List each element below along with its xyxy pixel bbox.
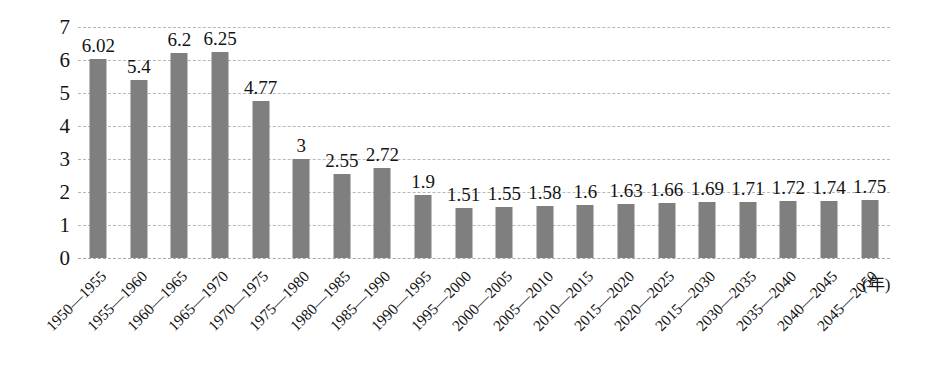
bar-value-label: 1.55	[488, 184, 521, 203]
bar-slot: 2.72	[362, 27, 403, 258]
y-axis-tick-label: 7	[30, 17, 70, 38]
bar-value-label: 2.72	[366, 145, 399, 164]
bar-slot: 3	[281, 27, 322, 258]
bar-slot: 6.2	[159, 27, 200, 258]
y-axis-tick-label: 4	[30, 116, 70, 137]
bar-value-label: 6.02	[82, 36, 115, 55]
bar-slot: 1.55	[484, 27, 525, 258]
bar-slot: 1.58	[525, 27, 566, 258]
bar-value-label: 1.72	[772, 178, 805, 197]
bar-slot: 1.71	[728, 27, 769, 258]
bar-value-label: 1.69	[691, 179, 724, 198]
x-axis: 1950—19551955—19601960—19651965—19701970…	[78, 258, 890, 375]
bar[interactable]	[536, 206, 553, 258]
bar-value-label: 1.58	[528, 183, 561, 202]
bar[interactable]	[333, 174, 350, 258]
bar[interactable]	[90, 59, 107, 258]
bar-value-label: 1.74	[812, 178, 845, 197]
bar-value-label: 1.6	[574, 182, 598, 201]
bar[interactable]	[739, 202, 756, 258]
bar[interactable]	[293, 159, 310, 258]
bar[interactable]	[455, 208, 472, 258]
bar-slot: 1.6	[565, 27, 606, 258]
bar-value-label: 3	[297, 136, 307, 155]
bar-value-label: 4.77	[244, 78, 277, 97]
bar-value-label: 6.2	[168, 30, 192, 49]
bar-value-label: 1.71	[731, 179, 764, 198]
bar[interactable]	[130, 80, 147, 258]
y-axis-tick-label: 0	[30, 248, 70, 269]
y-axis: 01234567	[22, 27, 70, 258]
bar-slot: 6.02	[78, 27, 119, 258]
bar-slot: 1.51	[443, 27, 484, 258]
x-axis-unit-label: (年)	[862, 276, 890, 293]
bar-value-label: 1.51	[447, 185, 480, 204]
bar[interactable]	[171, 53, 188, 258]
bar-value-label: 1.66	[650, 180, 683, 199]
bar-slot: 1.72	[768, 27, 809, 258]
bar-slot: 1.74	[809, 27, 850, 258]
bar-value-label: 6.25	[203, 29, 236, 48]
bar-slot: 6.25	[200, 27, 241, 258]
bar-value-label: 1.75	[853, 177, 886, 196]
y-axis-tick-label: 5	[30, 83, 70, 104]
y-axis-tick-label: 2	[30, 182, 70, 203]
bar-value-label: 5.4	[127, 57, 151, 76]
bar[interactable]	[861, 200, 878, 258]
bar[interactable]	[658, 203, 675, 258]
plot-area: 6.025.46.26.254.7732.552.721.91.511.551.…	[78, 27, 890, 258]
bar-slot: 2.55	[322, 27, 363, 258]
bar-slot: 1.66	[646, 27, 687, 258]
bar[interactable]	[577, 205, 594, 258]
y-axis-tick-label: 3	[30, 149, 70, 170]
bar[interactable]	[374, 168, 391, 258]
bar-slot: 1.75	[849, 27, 890, 258]
bar-slot: 4.77	[240, 27, 281, 258]
bar-value-label: 1.9	[411, 172, 435, 191]
bar[interactable]	[780, 201, 797, 258]
bar[interactable]	[699, 202, 716, 258]
bar[interactable]	[618, 204, 635, 258]
bar[interactable]	[496, 207, 513, 258]
bar[interactable]	[212, 52, 229, 258]
bar[interactable]	[821, 201, 838, 258]
y-axis-tick-label: 1	[30, 215, 70, 236]
bar-slot: 5.4	[119, 27, 160, 258]
y-axis-tick-label: 6	[30, 50, 70, 71]
bar-slot: 1.69	[687, 27, 728, 258]
bar-value-label: 2.55	[325, 151, 358, 170]
bar[interactable]	[415, 195, 432, 258]
bar-slot: 1.9	[403, 27, 444, 258]
bar-value-label: 1.63	[609, 181, 642, 200]
bar-slot: 1.63	[606, 27, 647, 258]
bar-chart: 01234567 6.025.46.26.254.7732.552.721.91…	[0, 0, 933, 375]
bar[interactable]	[252, 101, 269, 258]
